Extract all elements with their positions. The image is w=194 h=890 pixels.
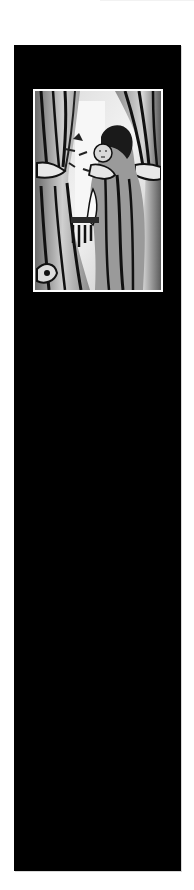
woodcut-illustration-icon bbox=[35, 91, 161, 290]
divider bbox=[100, 0, 194, 1]
black-panel bbox=[14, 45, 181, 871]
page bbox=[0, 0, 194, 890]
artwork-image[interactable] bbox=[33, 89, 163, 292]
